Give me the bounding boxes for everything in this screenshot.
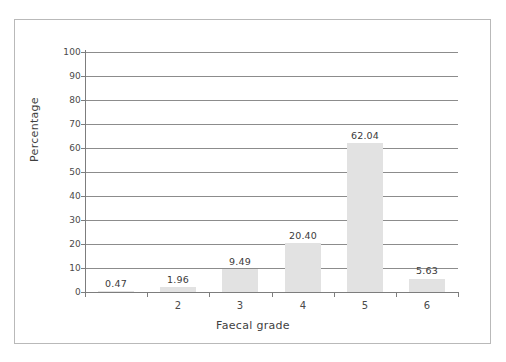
- x-tick-label-grade-5: 5: [345, 300, 385, 311]
- y-tick-label-40: 40: [45, 192, 81, 201]
- bar-value-grade-4: 20.40: [275, 230, 331, 241]
- x-tick-mark-6: [458, 292, 459, 297]
- gridline-100: [85, 52, 458, 53]
- x-tick-mark-2: [209, 292, 210, 297]
- gridline-60: [85, 148, 458, 149]
- bar-grade-5: [347, 143, 383, 292]
- gridline-70: [85, 124, 458, 125]
- y-tick-mark-80: [81, 100, 85, 101]
- y-tick-label-0: 0: [45, 288, 81, 297]
- bar-value-grade-1: 0.47: [88, 278, 144, 289]
- x-tick-mark-4: [334, 292, 335, 297]
- gridline-80: [85, 100, 458, 101]
- y-tick-label-100: 100: [45, 48, 81, 57]
- gridline-50: [85, 172, 458, 173]
- y-axis-line: [85, 50, 86, 294]
- y-tick-label-80: 80: [45, 96, 81, 105]
- bar-grade-3: [222, 269, 258, 292]
- x-tick-label-grade-2: 2: [158, 300, 198, 311]
- x-tick-mark-5: [396, 292, 397, 297]
- gridline-90: [85, 76, 458, 77]
- x-tick-label-grade-3: 3: [220, 300, 260, 311]
- x-tick-mark-1: [147, 292, 148, 297]
- bar-value-grade-6: 5.63: [399, 265, 455, 276]
- x-tick-mark-0: [85, 292, 86, 297]
- gridline-40: [85, 196, 458, 197]
- y-tick-mark-60: [81, 148, 85, 149]
- x-tick-label-grade-6: 6: [407, 300, 447, 311]
- y-tick-mark-100: [81, 52, 85, 53]
- y-tick-label-20: 20: [45, 240, 81, 249]
- bar-value-grade-5: 62.04: [337, 130, 393, 141]
- y-tick-mark-90: [81, 76, 85, 77]
- y-tick-mark-10: [81, 268, 85, 269]
- bar-grade-6: [409, 279, 445, 293]
- y-tick-mark-30: [81, 220, 85, 221]
- bar-value-grade-3: 9.49: [212, 256, 268, 267]
- y-tick-label-50: 50: [45, 168, 81, 177]
- gridline-30: [85, 220, 458, 221]
- y-tick-mark-40: [81, 196, 85, 197]
- x-axis-title: Faecal grade: [0, 319, 506, 332]
- y-tick-label-10: 10: [45, 264, 81, 273]
- y-tick-label-group: 100 90 80 70 60 50 40 30 20 10 0: [43, 0, 81, 362]
- bar-grade-4: [285, 243, 321, 292]
- plot-area: 0.47 1.96 9.49 20.40 62.04 5.63: [85, 52, 458, 292]
- y-tick-label-90: 90: [45, 72, 81, 81]
- x-tick-label-grade-4: 4: [283, 300, 323, 311]
- y-tick-label-60: 60: [45, 144, 81, 153]
- bar-value-grade-2: 1.96: [150, 274, 206, 285]
- gridline-20: [85, 244, 458, 245]
- figure-canvas: 0.47 1.96 9.49 20.40 62.04 5.63 100 90 8…: [0, 0, 506, 362]
- y-axis-title: Percentage: [28, 70, 41, 190]
- y-tick-label-30: 30: [45, 216, 81, 225]
- y-tick-mark-70: [81, 124, 85, 125]
- x-tick-mark-3: [272, 292, 273, 297]
- y-tick-label-70: 70: [45, 120, 81, 129]
- y-tick-mark-20: [81, 244, 85, 245]
- y-tick-mark-50: [81, 172, 85, 173]
